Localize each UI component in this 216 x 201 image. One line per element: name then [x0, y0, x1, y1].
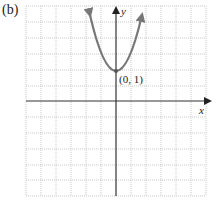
y-axis-label: y [121, 5, 126, 17]
x-axis-label: x [199, 104, 204, 116]
vertex-point [114, 69, 118, 73]
vertex-label: (0, 1) [119, 73, 143, 85]
graph [0, 0, 216, 201]
